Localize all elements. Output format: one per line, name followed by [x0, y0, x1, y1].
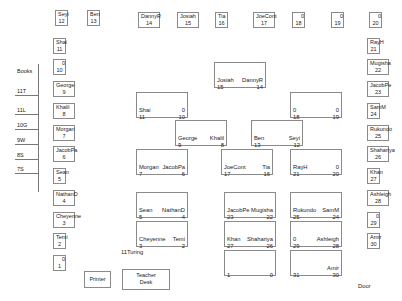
wall-seat[interactable]: JacobPa6	[53, 146, 75, 162]
left-seat-name: JacobPe	[227, 207, 250, 214]
seat-name: DannyR	[139, 13, 159, 20]
wall-seat[interactable]: 020	[369, 12, 382, 28]
desk-pair[interactable]: Cheyenne3Temi2	[136, 221, 188, 247]
wall-seat[interactable]: Mugisha22	[367, 59, 389, 75]
left-seat-number: 17	[224, 171, 230, 178]
right-seat-number: 19	[333, 114, 339, 121]
wall-seat[interactable]: Shahariya26	[367, 146, 389, 162]
left-seat-name: 0	[293, 236, 296, 243]
desk-pair[interactable]: 10	[224, 250, 276, 276]
wall-seat[interactable]: Rukundo25	[367, 125, 389, 141]
wall-seat[interactable]: 029	[367, 212, 380, 228]
wall-seat[interactable]: DannyR14	[138, 12, 160, 28]
seat-name: 0	[368, 213, 379, 220]
wall-seat[interactable]: Seyi12	[55, 10, 68, 26]
desk-pair[interactable]: Josiah15DannyR14	[214, 62, 266, 88]
right-seat-name: Amir	[327, 265, 339, 272]
wall-seat[interactable]: Morgan7	[53, 125, 75, 141]
door-label: Door	[358, 283, 371, 289]
desk-pair[interactable]: Sean5NathanD4	[136, 192, 188, 218]
seat-name: Shahariya	[368, 147, 388, 154]
right-seat-number: 20	[333, 171, 339, 178]
seat-name: JoeCont	[254, 13, 274, 20]
desk-pair[interactable]: 029Ashleigh28	[290, 221, 342, 247]
right-seat-name: 0	[336, 164, 339, 171]
seat-name: George	[54, 82, 74, 89]
wall-seat[interactable]: Ben13	[87, 10, 100, 26]
wall-seat[interactable]: George9	[53, 81, 75, 97]
desk-pair[interactable]: JoeCont17Tia16	[221, 149, 273, 175]
wall-seat[interactable]: 010	[53, 59, 66, 75]
desk-pair[interactable]: 018019	[290, 92, 342, 118]
left-seat-number: 1	[227, 272, 230, 279]
seat-name: 0	[370, 13, 381, 20]
wall-seat[interactable]: 01	[53, 255, 66, 271]
wall-seat[interactable]: NathanD4	[53, 190, 75, 206]
desk-pair[interactable]: RayH21020	[290, 149, 342, 175]
left-seat-name: Morgan	[139, 164, 159, 171]
left-seat-number: 31	[293, 272, 299, 279]
left-seat-number: 9	[178, 142, 181, 149]
wall-seat[interactable]: SamM24	[367, 103, 380, 119]
shelf-10g: 10G	[15, 122, 38, 130]
seat-number: 16	[216, 20, 227, 27]
right-seat-number: 2	[182, 243, 185, 250]
seat-number: 5	[54, 176, 65, 183]
seat-number: 10	[54, 67, 65, 74]
left-seat-name: Cheyenne	[139, 236, 165, 243]
wall-seat[interactable]: JacobPe23	[367, 81, 389, 97]
seat-name: 0	[54, 60, 65, 67]
desk-pair[interactable]: George9Khalil8	[175, 120, 227, 146]
wall-seat[interactable]: Khalil8	[53, 103, 75, 119]
seat-number: 8	[54, 111, 74, 118]
seat-name: Morgan	[54, 126, 74, 133]
wall-seat[interactable]: Ashleigh28	[367, 190, 389, 206]
left-seat-number: 23	[227, 214, 233, 221]
seat-name: Sean	[54, 169, 65, 176]
wall-seat[interactable]: Tia16	[215, 12, 228, 28]
bookshelf-title: Books	[17, 68, 32, 74]
left-seat-name: Josiah	[217, 77, 234, 84]
right-seat-name: Mugisha	[251, 207, 273, 214]
seat-name: SamM	[368, 104, 379, 111]
desk-pair[interactable]: Morgan7JacobPa6	[136, 149, 188, 175]
wall-seat[interactable]: Amir30	[367, 233, 380, 249]
wall-seat[interactable]: Sean5	[53, 168, 66, 184]
seat-name: JacobPa	[54, 147, 74, 154]
bookshelf: Books 11T 11L 10G 9W 8S 7S	[15, 64, 39, 192]
teacher-desk-line2: Desk	[123, 279, 169, 286]
wall-seat[interactable]: RayH21	[367, 38, 380, 54]
seat-name: JacobPe	[368, 82, 388, 89]
left-seat-name: Shai	[139, 107, 151, 114]
seat-name: Josiah	[178, 13, 198, 20]
shelf-11t: 11T	[15, 88, 38, 96]
desk-pair[interactable]: JacobPe23Mugisha22	[224, 192, 276, 218]
seat-name: NathanD	[54, 191, 74, 198]
desk-pair[interactable]: Ben13Seyi12	[251, 120, 303, 146]
right-seat-number: 6	[182, 171, 185, 178]
seat-number: 18	[293, 20, 304, 27]
desk-pair[interactable]: Rukundo25SamM24	[290, 192, 342, 218]
shelf-7s: 7S	[15, 166, 38, 174]
seat-number: 21	[368, 46, 379, 53]
seat-number: 11	[54, 46, 65, 53]
seat-number: 15	[178, 20, 198, 27]
wall-seat[interactable]: Shai11	[53, 38, 66, 54]
right-seat-name: 0	[336, 107, 339, 114]
wall-seat[interactable]: 018	[292, 12, 305, 28]
seat-number: 6	[54, 154, 74, 161]
left-seat-number: 25	[293, 214, 299, 221]
class-label: 11Turing	[121, 249, 143, 255]
left-seat-name: George	[178, 135, 197, 142]
seat-number: 19	[332, 20, 343, 27]
desk-pair[interactable]: Shai11010	[136, 92, 188, 118]
wall-seat[interactable]: Temi2	[53, 233, 66, 249]
desk-pair[interactable]: Khan27Shahariya26	[224, 221, 276, 247]
wall-seat[interactable]: Cheyenne3	[53, 212, 75, 228]
left-seat-name: 0	[293, 107, 296, 114]
wall-seat[interactable]: 019	[331, 12, 344, 28]
wall-seat[interactable]: Khan27	[367, 168, 380, 184]
wall-seat[interactable]: JoeCont17	[253, 12, 275, 28]
wall-seat[interactable]: Josiah15	[177, 12, 199, 28]
desk-pair[interactable]: 31Amir30	[290, 250, 342, 276]
